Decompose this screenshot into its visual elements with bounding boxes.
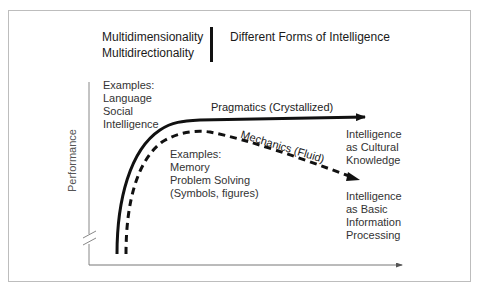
mechanics-example-symbols: (Symbols, figures) <box>170 187 259 201</box>
mechanics-outcome-line2: as Basic <box>346 203 388 217</box>
axis-break-mark <box>83 238 96 245</box>
mechanics-arrowhead <box>346 172 360 181</box>
mechanics-example-problem-solving: Problem Solving <box>170 174 250 188</box>
y-axis-label: Performance <box>66 129 78 192</box>
pragmatics-examples-heading: Examples: <box>103 79 154 93</box>
pragmatics-outcome-line1: Intelligence <box>346 128 402 142</box>
mechanics-example-memory: Memory <box>170 161 210 175</box>
pragmatics-label: Pragmatics (Crystallized) <box>211 101 333 113</box>
pragmatics-example-social: Social <box>103 105 133 119</box>
pragmatics-example-intelligence: Intelligence <box>103 118 159 132</box>
mechanics-outcome-line3: Information <box>346 216 401 230</box>
pragmatics-outcome-line3: Knowledge <box>346 154 400 168</box>
y-axis <box>83 82 96 265</box>
mechanics-outcome-line4: Processing <box>346 229 400 243</box>
pragmatics-outcome-line2: as Cultural <box>346 141 399 155</box>
pragmatics-example-language: Language <box>103 92 152 106</box>
mechanics-outcome-line1: Intelligence <box>346 190 402 204</box>
mechanics-examples-heading: Examples: <box>170 148 221 162</box>
